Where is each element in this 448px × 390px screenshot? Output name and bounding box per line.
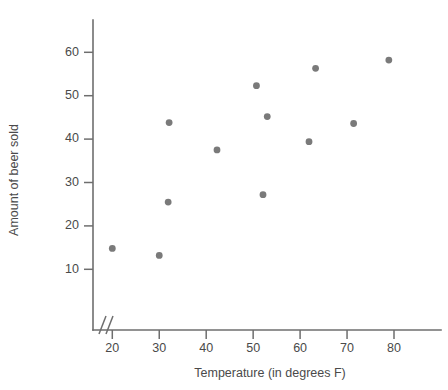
y-axis-tick-label: 40 xyxy=(65,131,79,145)
tick-labels-group: 10203040506020304050607080 xyxy=(65,45,401,355)
x-axis-tick-label: 80 xyxy=(387,341,401,355)
x-axis-tick-label: 60 xyxy=(293,341,307,355)
x-axis-title: Temperature (in degrees F) xyxy=(194,366,345,380)
data-point xyxy=(253,82,260,89)
data-point xyxy=(165,199,172,206)
y-axis-tick-label: 60 xyxy=(65,45,79,59)
x-axis-tick-label: 70 xyxy=(340,341,354,355)
x-axis-tick-label: 50 xyxy=(246,341,260,355)
scatter-plot-figure: 10203040506020304050607080 Temperature (… xyxy=(0,0,448,390)
data-point xyxy=(312,65,319,72)
x-axis-tick-label: 40 xyxy=(199,341,213,355)
y-axis-title: Amount of beer sold xyxy=(7,124,21,236)
data-point xyxy=(214,147,221,154)
y-axis-tick-label: 20 xyxy=(65,218,79,232)
data-point xyxy=(350,120,357,127)
y-axis-tick-label: 10 xyxy=(65,262,79,276)
x-axis-tick-label: 30 xyxy=(152,341,166,355)
data-point xyxy=(264,113,271,120)
axes-group xyxy=(93,20,441,334)
data-point xyxy=(385,57,392,64)
tick-marks-group xyxy=(84,52,394,339)
y-axis-tick-label: 30 xyxy=(65,175,79,189)
data-point xyxy=(260,191,267,198)
data-point xyxy=(306,138,313,145)
y-axis-tick-label: 50 xyxy=(65,88,79,102)
data-points-group xyxy=(109,57,392,259)
data-point xyxy=(156,252,163,259)
data-point xyxy=(166,119,173,126)
data-point xyxy=(109,245,116,252)
plot-canvas: 10203040506020304050607080 Temperature (… xyxy=(0,0,448,390)
x-axis-tick-label: 20 xyxy=(105,341,119,355)
axis-break-slash-icon xyxy=(99,316,106,334)
